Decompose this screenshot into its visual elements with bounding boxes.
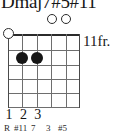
fret-line <box>8 93 80 94</box>
string-line-2 <box>22 34 23 108</box>
fret-position-label: 11fr. <box>83 33 110 49</box>
fingering-row: 1 2 3 <box>8 108 80 122</box>
chord-diagram-card: Dmaj7#5#11 11fr. 1 2 3 R #11 7 <box>0 0 118 135</box>
finger-number: 1 <box>2 108 16 122</box>
fret-line <box>8 50 80 51</box>
fretboard-grid <box>8 34 80 108</box>
nut-line <box>8 34 80 36</box>
open-string-circle-icon <box>61 14 71 24</box>
string-line-1 <box>8 34 9 108</box>
string-line-4 <box>51 34 52 108</box>
open-string-marker-row <box>8 13 80 26</box>
finger-dot <box>16 52 28 64</box>
finger-number: 2 <box>16 108 30 122</box>
interval-label: R <box>4 123 10 134</box>
interval-label: #11 <box>14 123 27 134</box>
finger-dot <box>31 52 43 64</box>
string-line-6 <box>79 34 80 108</box>
string-line-3 <box>37 34 38 108</box>
interval-label: 3 <box>46 123 51 134</box>
interval-label: #5 <box>58 123 67 134</box>
interval-row: R #11 7 3 #5 <box>2 123 92 134</box>
open-string-circle-icon <box>3 28 14 39</box>
string-line-5 <box>66 34 67 108</box>
fret-line <box>8 79 80 80</box>
chord-name: Dmaj7#5#11 <box>1 0 117 13</box>
interval-label: 7 <box>31 123 36 134</box>
finger-number: 3 <box>31 108 45 122</box>
fret-line <box>8 65 80 66</box>
open-string-circle-icon <box>47 14 57 24</box>
